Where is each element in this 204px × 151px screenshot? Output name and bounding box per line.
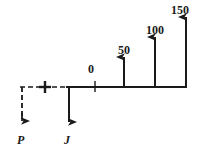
- reaction-100-label: 100: [146, 24, 164, 36]
- load-diagram-figure: 0 50 100 150 P J: [0, 0, 204, 151]
- reaction-150-label: 150: [171, 4, 189, 16]
- diagram-canvas: [0, 0, 204, 151]
- force-j-label: J: [64, 134, 70, 146]
- plus-marker-icon: [39, 81, 51, 93]
- reaction-50-label: 50: [118, 44, 130, 56]
- origin-label: 0: [88, 63, 94, 75]
- force-p-label: P: [17, 134, 24, 146]
